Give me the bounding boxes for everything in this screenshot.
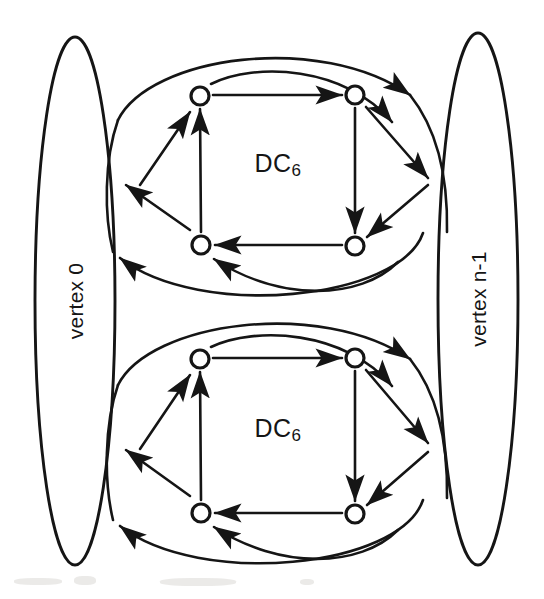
cluster-label-bottom-sub: 6 [292, 426, 302, 445]
cluster-label-top-sub: 6 [292, 161, 302, 180]
vertex-label-left: vertex 0 [64, 263, 87, 339]
edge-top-tr-to-right-ellipse [366, 107, 428, 178]
cluster-node [191, 350, 209, 368]
arc-bottom-outer-left-to-right [118, 324, 410, 385]
arc-top-inner-to-bl [214, 259, 398, 291]
cluster-node [346, 505, 364, 523]
edge-bottom-bl-to-tl [200, 372, 201, 500]
edge-top-bl-to-tl [200, 109, 201, 232]
cluster-label-top-main: DC [254, 149, 291, 177]
edge-bottom-to-left-ellipse [126, 450, 190, 496]
edge-bottom-right-ellipse-to-br [367, 452, 428, 505]
cluster-node [192, 236, 210, 254]
cluster-node [192, 504, 210, 522]
arc-bottom-inner-to-bl [214, 527, 398, 559]
cluster-node [346, 349, 364, 367]
cluster-label-top: DC6 [254, 149, 301, 180]
cluster-node [346, 237, 364, 255]
figure-canvas: vertex 0 vertex n-1 DC6 DC6 [0, 0, 544, 599]
cluster-node [346, 86, 364, 104]
edge-top-to-left-ellipse [126, 185, 190, 230]
cluster-label-bottom: DC6 [254, 414, 301, 445]
edge-top-right-ellipse-to-br [367, 185, 428, 237]
diagram-svg: vertex 0 vertex n-1 DC6 DC6 [0, 0, 544, 599]
edge-top-from-left-to-tl [140, 112, 190, 185]
edge-bottom-from-left-to-tl [140, 375, 190, 449]
cluster-label-bottom-main: DC [254, 414, 291, 442]
vertex-label-left-text: vertex 0 [64, 263, 87, 339]
cluster-node [191, 87, 209, 105]
arc-top-outer-left-to-right [118, 58, 410, 120]
edge-bottom-tr-to-right-ellipse [366, 370, 428, 443]
vertex-label-right: vertex n-1 [467, 251, 490, 346]
vertex-label-right-text: vertex n-1 [467, 251, 490, 346]
